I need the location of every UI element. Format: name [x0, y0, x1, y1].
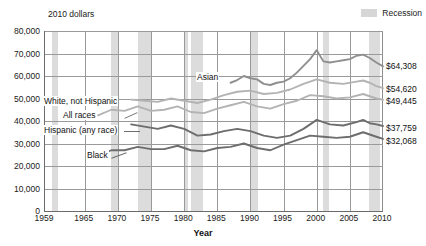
series-label-black: Black [86, 150, 109, 160]
x-tick-label: 1970 [107, 213, 126, 223]
y-tick-label: 20,000 [0, 161, 40, 171]
series-line-black [98, 132, 383, 156]
series-label-white-not-hispanic: White, not Hispanic [43, 96, 118, 106]
x-axis-title: Year [0, 228, 426, 238]
x-tick-label: 2005 [339, 213, 358, 223]
plot-area [44, 31, 383, 212]
value-label-asian: $64,308 [386, 61, 417, 71]
value-label-white-not-hispanic: $54,620 [386, 84, 417, 94]
chart-legend: Recession [361, 8, 422, 18]
income-by-race-line-chart: 2010 dollars Recession 010,00020,00030,0… [0, 0, 426, 246]
series-lines [45, 31, 383, 211]
leader-line-hispanic [124, 131, 140, 132]
x-tick-label: 1985 [207, 213, 226, 223]
series-line-asian [231, 50, 383, 85]
recession-swatch-icon [361, 9, 377, 17]
y-axis-unit-label: 2010 dollars [48, 9, 94, 19]
y-tick-label: 80,000 [0, 26, 40, 36]
value-label-hispanic: $37,759 [386, 123, 417, 133]
x-tick-label: 2000 [306, 213, 325, 223]
x-tick-label: 1990 [240, 213, 259, 223]
y-tick-label: 40,000 [0, 116, 40, 126]
y-tick-label: 60,000 [0, 71, 40, 81]
series-label-all-races: All races [62, 110, 97, 120]
series-line-all-races [98, 94, 383, 115]
x-tick-label: 2010 [373, 213, 392, 223]
y-tick-label: 50,000 [0, 94, 40, 104]
x-tick-label: 1980 [174, 213, 193, 223]
series-line-white-not-hispanic [131, 79, 383, 103]
series-label-hispanic: Hispanic (any race) [43, 125, 118, 135]
y-tick-label: 70,000 [0, 49, 40, 59]
value-label-all-races: $49,445 [386, 96, 417, 106]
x-tick-label: 1995 [273, 213, 292, 223]
value-label-black: $32,068 [386, 136, 417, 146]
series-label-asian: Asian [196, 72, 219, 82]
series-line-hispanic-any-race [131, 120, 383, 138]
x-tick-label: 1965 [74, 213, 93, 223]
legend-label-recession: Recession [382, 8, 422, 18]
x-tick-label: 1959 [35, 213, 54, 223]
y-tick-label: 10,000 [0, 184, 40, 194]
y-tick-label: 30,000 [0, 139, 40, 149]
x-tick-label: 1975 [141, 213, 160, 223]
chart-title-cropped [0, 0, 426, 7]
